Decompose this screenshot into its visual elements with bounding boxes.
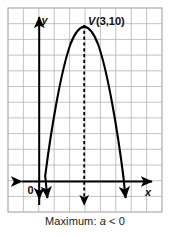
origin-label: 0 [28,184,34,196]
y-axis-label: y [41,14,49,26]
x-axis-label: x [144,186,152,198]
figure-caption: Maximum: a < 0 [0,215,170,227]
vertex-point [83,25,86,28]
vertex-coordinates: (3,10) [96,15,125,27]
caption-suffix: < 0 [106,215,125,227]
graph-canvas: y x 0 V (3,10) [0,0,170,236]
caption-prefix: Maximum: [45,215,100,227]
